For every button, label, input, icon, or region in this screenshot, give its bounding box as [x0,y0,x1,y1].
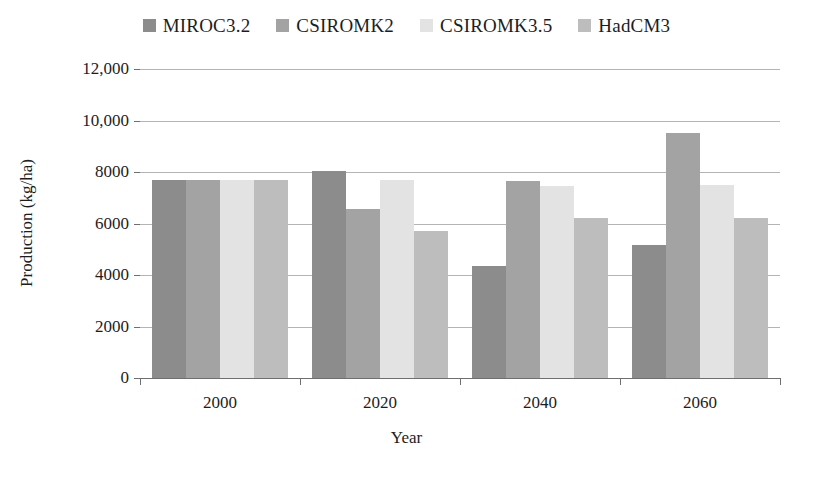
bar [152,180,186,378]
bar [700,185,734,378]
y-tick-label: 4000 [95,265,129,285]
legend-item-hadcm3: HadCM3 [578,16,670,35]
y-axis-title: Production (kg/ha) [17,123,37,323]
y-tick-mark [134,121,140,122]
bar [540,186,574,378]
x-tick-mark [300,378,301,385]
y-tick-mark [134,224,140,225]
legend-swatch-miroc32 [143,19,156,32]
bar [666,133,700,378]
bar [734,218,768,378]
y-tick-label: 2000 [95,317,129,337]
legend-swatch-csiromk35 [420,19,433,32]
y-tick-label: 0 [121,368,130,388]
x-tick-label: 2040 [523,393,557,413]
legend-item-miroc32: MIROC3.2 [143,16,251,35]
x-tick-label: 2020 [363,393,397,413]
y-tick-mark [134,172,140,173]
legend-item-csiromk2: CSIROMK2 [276,16,394,35]
x-tick-mark [460,378,461,385]
x-tick-mark [140,378,141,385]
legend-label-csiromk2: CSIROMK2 [296,16,394,35]
bar [254,180,288,378]
legend-swatch-hadcm3 [578,19,591,32]
y-tick-mark [134,327,140,328]
x-tick-mark [620,378,621,385]
y-tick-mark [134,275,140,276]
chart-legend: MIROC3.2 CSIROMK2 CSIROMK3.5 HadCM3 [0,16,813,35]
x-tick-label: 2000 [203,393,237,413]
bar [186,180,220,378]
bar [414,231,448,378]
x-tick-mark [780,378,781,385]
bar [472,266,506,378]
legend-label-hadcm3: HadCM3 [598,16,670,35]
legend-swatch-csiromk2 [276,19,289,32]
y-tick-label: 10,000 [82,111,129,131]
gridline [140,69,780,70]
bar [220,180,254,378]
y-tick-label: 6000 [95,214,129,234]
bar [380,180,414,378]
x-tick-label: 2060 [683,393,717,413]
y-tick-mark [134,69,140,70]
bar [506,181,540,378]
bar [574,218,608,378]
chart-figure: MIROC3.2 CSIROMK2 CSIROMK3.5 HadCM3 Prod… [0,0,813,478]
legend-item-csiromk35: CSIROMK3.5 [420,16,552,35]
legend-label-miroc32: MIROC3.2 [163,16,251,35]
plot-area: 0200040006000800010,00012,00020002020204… [140,69,780,378]
bar [312,171,346,378]
bar [346,209,380,378]
legend-label-csiromk35: CSIROMK3.5 [440,16,552,35]
y-tick-label: 8000 [95,162,129,182]
gridline [140,121,780,122]
bar [632,245,666,378]
y-tick-label: 12,000 [82,59,129,79]
x-axis-title: Year [0,428,813,448]
